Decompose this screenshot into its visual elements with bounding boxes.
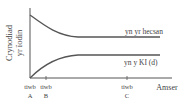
label-ki-aq: yn y KI (d) bbox=[124, 58, 158, 67]
y-axis-label-line1: Crynodiad bbox=[4, 24, 14, 61]
y-axis-label-line2: yr ïodin bbox=[14, 29, 24, 56]
label-hexane: yn yr hecsan bbox=[125, 27, 163, 36]
tick-c-label-line2: C bbox=[125, 92, 129, 99]
tick-b-label-line1: tiwb bbox=[40, 83, 52, 90]
equilibrium-diagram: Crynodiad yr ïodin yn yr hecsan yn y KI … bbox=[0, 0, 184, 107]
tick-c-label-line1: tiwb bbox=[121, 83, 133, 90]
tick-b-label-line2: B bbox=[44, 92, 49, 99]
tick-a-label-line1: tiwb bbox=[24, 83, 36, 90]
x-axis-label: Amser bbox=[156, 83, 178, 92]
tick-a-label-line2: A bbox=[28, 92, 33, 99]
